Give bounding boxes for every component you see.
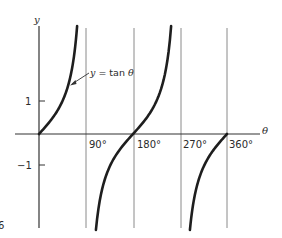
- x-axis-label: θ: [262, 125, 268, 136]
- curve-label: y = tan θ: [89, 67, 134, 78]
- curve-label-eq: = tan: [95, 67, 128, 78]
- x-tick-label-360: 360°: [229, 139, 253, 150]
- y-tick-label-1: 1: [25, 96, 31, 107]
- tan-curve-branch-1: [39, 26, 77, 134]
- y-axis-label: y: [33, 14, 40, 25]
- curve-label-theta: θ: [128, 67, 134, 78]
- annotation-arrowhead-icon: [70, 80, 77, 86]
- corner-mark: 6: [0, 220, 4, 231]
- x-tick-label-90: 90°: [89, 139, 107, 150]
- y-tick-label-neg1: −1: [17, 160, 32, 171]
- x-tick-label-180: 180°: [137, 139, 161, 150]
- tan-graph: y θ y = tan θ 90° 180° 270° 360° 1 −1 6: [0, 0, 282, 238]
- x-tick-label-270: 270°: [183, 139, 207, 150]
